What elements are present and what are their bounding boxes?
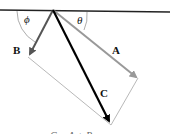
theta-arc (84, 12, 87, 30)
label-b: B (13, 44, 21, 56)
vector-a (53, 10, 136, 77)
label-a: A (112, 44, 120, 56)
phi-label: ϕ (24, 13, 30, 25)
vector-diagram: ϕ θ B A C C = A + B ... (0, 0, 170, 134)
surface-line (0, 10, 170, 12)
label-c: C (100, 87, 108, 99)
vector-b (30, 10, 53, 54)
caption: C = A + B ... (50, 130, 102, 134)
vector-c (53, 10, 109, 121)
theta-label: θ (77, 14, 83, 26)
